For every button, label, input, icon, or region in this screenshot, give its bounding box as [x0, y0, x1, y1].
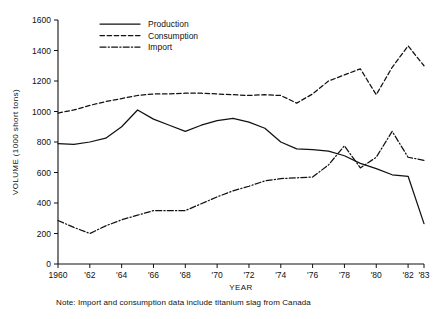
- chart-figure: 02004006008001000120014001600 1960'62'64…: [0, 0, 438, 319]
- axes-group: [58, 20, 424, 264]
- y-tick-label: 400: [37, 198, 51, 208]
- series-line-production: [58, 110, 424, 224]
- legend-label-production: Production: [148, 19, 189, 29]
- x-tick-label: '62: [84, 270, 95, 280]
- x-tick-label: '80: [371, 270, 382, 280]
- y-tick-label: 600: [37, 168, 51, 178]
- y-tick-label: 1200: [32, 76, 51, 86]
- series-line-consumption: [58, 46, 424, 113]
- x-axis-title: YEAR: [229, 283, 252, 292]
- y-axis-title: VOLUME (1000 short tons): [11, 89, 20, 195]
- line-chart-svg: 02004006008001000120014001600 1960'62'64…: [0, 0, 438, 319]
- x-tick-label: '66: [148, 270, 159, 280]
- x-tick-label: '74: [275, 270, 286, 280]
- chart-note: Note: Import and consumption data includ…: [56, 298, 311, 307]
- y-tick-label: 800: [37, 137, 51, 147]
- x-tick-label: '64: [116, 270, 127, 280]
- y-tick-label: 1400: [32, 46, 51, 56]
- x-tick-label: '70: [212, 270, 223, 280]
- x-tick-label: '83: [418, 270, 429, 280]
- series-line-import: [58, 131, 424, 233]
- chart-legend: ProductionConsumptionImport: [100, 19, 198, 52]
- legend-label-import: Import: [148, 42, 173, 52]
- y-tick-label: 200: [37, 229, 51, 239]
- x-tick-label: '72: [243, 270, 254, 280]
- x-tick-label: '76: [307, 270, 318, 280]
- y-tick-label: 1600: [32, 15, 51, 25]
- x-axis-ticks: 1960'62'64'66'68'70'72'74'76'78'80'82'83: [49, 264, 430, 280]
- y-tick-label: 0: [46, 259, 51, 269]
- x-tick-label: '78: [339, 270, 350, 280]
- y-tick-label: 1000: [32, 107, 51, 117]
- x-tick-label: '82: [403, 270, 414, 280]
- legend-label-consumption: Consumption: [148, 31, 198, 41]
- x-tick-label: '68: [180, 270, 191, 280]
- plot-series-group: [58, 46, 424, 234]
- y-axis-ticks: 02004006008001000120014001600: [32, 15, 58, 269]
- x-tick-label: 1960: [49, 270, 68, 280]
